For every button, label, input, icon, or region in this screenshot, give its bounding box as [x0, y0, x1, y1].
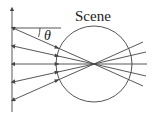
ray-outgoing [94, 64, 143, 86]
ray-incoming [13, 64, 94, 100]
ray-outgoing [94, 64, 146, 76]
ray-incoming [13, 64, 94, 82]
ray-incoming [13, 46, 94, 64]
ray-direction-arrow [54, 79, 59, 83]
ray-incoming [13, 28, 94, 64]
ray-direction-arrow [55, 62, 60, 66]
ray-outgoing [94, 42, 143, 64]
ray-direction-arrow [54, 45, 59, 49]
rays-group [13, 28, 147, 100]
angle-label: θ [44, 28, 51, 43]
scene-label: Scene [75, 8, 111, 24]
ray-outgoing [94, 52, 146, 64]
scene-ray-diagram: θ Scene [0, 0, 155, 114]
angle-arc [39, 28, 41, 37]
